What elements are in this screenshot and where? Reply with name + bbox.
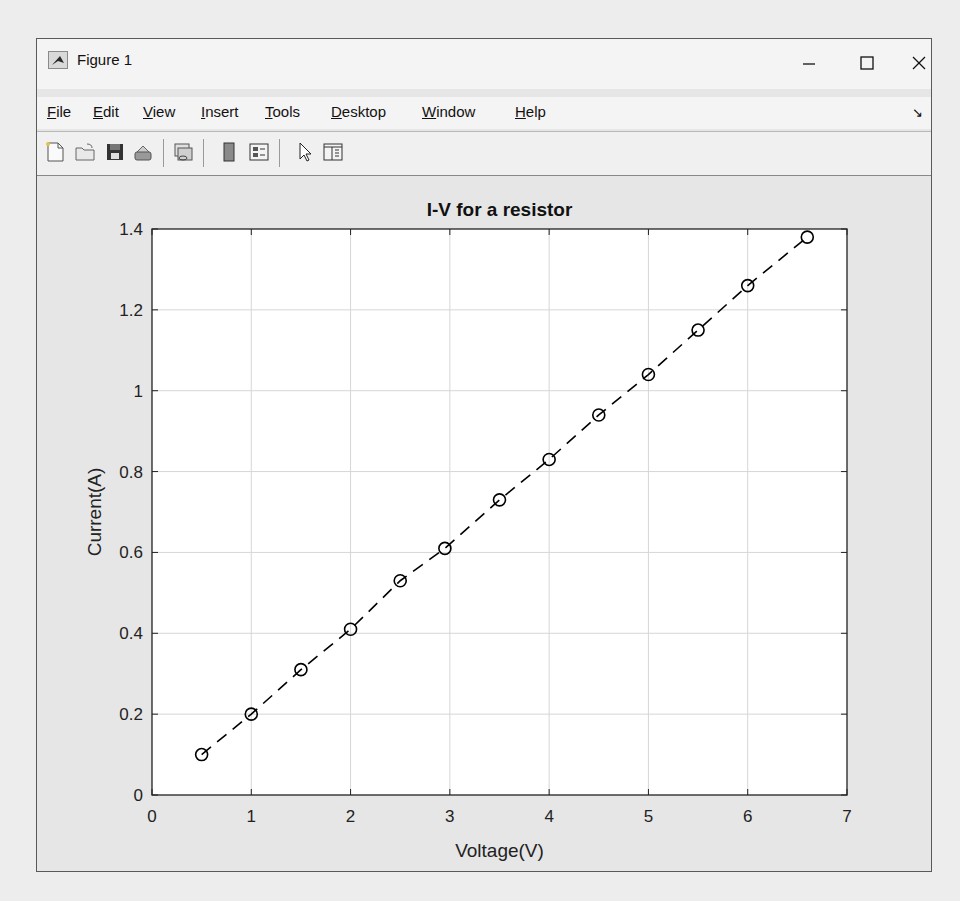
legend-icon	[247, 140, 271, 164]
close-icon	[911, 55, 927, 71]
x-tick-label: 2	[346, 807, 355, 826]
menu-help[interactable]: Help	[515, 103, 546, 120]
y-tick-label: 0.8	[119, 463, 143, 482]
maximize-button[interactable]	[845, 43, 889, 83]
title-bar: Figure 1	[37, 39, 931, 89]
menu-edit[interactable]: Edit	[93, 103, 119, 120]
print-icon	[131, 140, 155, 164]
dock-arrow-icon[interactable]: ↘	[912, 105, 923, 120]
new-file-icon	[43, 140, 67, 164]
open-file-button[interactable]	[73, 140, 97, 164]
y-tick-label: 0	[134, 786, 143, 805]
y-tick-label: 1.2	[119, 301, 143, 320]
minimize-button[interactable]	[787, 43, 831, 83]
pointer-arrow-icon	[293, 140, 317, 164]
toolbar-separator	[203, 139, 204, 167]
link-plot-icon	[171, 140, 195, 164]
save-icon	[103, 140, 127, 164]
minimize-icon	[801, 55, 817, 71]
new-figure-button[interactable]	[43, 140, 67, 164]
y-tick-label: 0.4	[119, 624, 143, 643]
y-tick-label: 1	[134, 382, 143, 401]
x-axis-label: Voltage(V)	[455, 840, 544, 861]
link-plot-button[interactable]	[171, 140, 195, 164]
insert-colorbar-button[interactable]	[217, 140, 241, 164]
open-folder-icon	[73, 140, 97, 164]
menu-tools[interactable]: Tools	[265, 103, 300, 120]
figure-toolbar	[37, 131, 931, 176]
y-axis-label: Current(A)	[84, 468, 105, 557]
x-tick-label: 6	[743, 807, 752, 826]
insert-legend-button[interactable]	[247, 140, 271, 164]
x-tick-label: 3	[445, 807, 454, 826]
x-tick-label: 1	[247, 807, 256, 826]
maximize-icon	[859, 55, 875, 71]
close-button[interactable]	[897, 43, 941, 83]
x-tick-label: 4	[544, 807, 553, 826]
x-tick-label: 7	[842, 807, 851, 826]
x-tick-label: 0	[147, 807, 156, 826]
menu-view[interactable]: View	[143, 103, 175, 120]
y-tick-label: 1.4	[119, 220, 143, 239]
figure-window: Figure 1 File Edit View Insert Tools Des…	[36, 38, 932, 872]
toolbar-separator	[279, 139, 280, 167]
y-tick-label: 0.6	[119, 543, 143, 562]
menu-window[interactable]: Window	[422, 103, 475, 120]
window-title: Figure 1	[77, 51, 132, 68]
iv-plot[interactable]: 0123456700.20.40.60.811.21.4I-V for a re…	[37, 176, 931, 872]
chart-title: I-V for a resistor	[427, 199, 573, 220]
property-panel-icon	[321, 140, 345, 164]
menu-insert[interactable]: Insert	[201, 103, 239, 120]
menu-bar: File Edit View Insert Tools Desktop Wind…	[37, 97, 931, 129]
y-tick-label: 0.2	[119, 705, 143, 724]
colorbar-icon	[217, 140, 241, 164]
matlab-figure-icon	[48, 51, 68, 69]
toolbar-separator	[163, 139, 164, 167]
save-figure-button[interactable]	[103, 140, 127, 164]
print-figure-button[interactable]	[131, 140, 155, 164]
edit-plot-button[interactable]	[293, 140, 317, 164]
menu-desktop[interactable]: Desktop	[331, 103, 386, 120]
property-inspector-button[interactable]	[321, 140, 345, 164]
x-tick-label: 5	[644, 807, 653, 826]
figure-canvas: 0123456700.20.40.60.811.21.4I-V for a re…	[37, 176, 931, 871]
menu-file[interactable]: File	[47, 103, 71, 120]
